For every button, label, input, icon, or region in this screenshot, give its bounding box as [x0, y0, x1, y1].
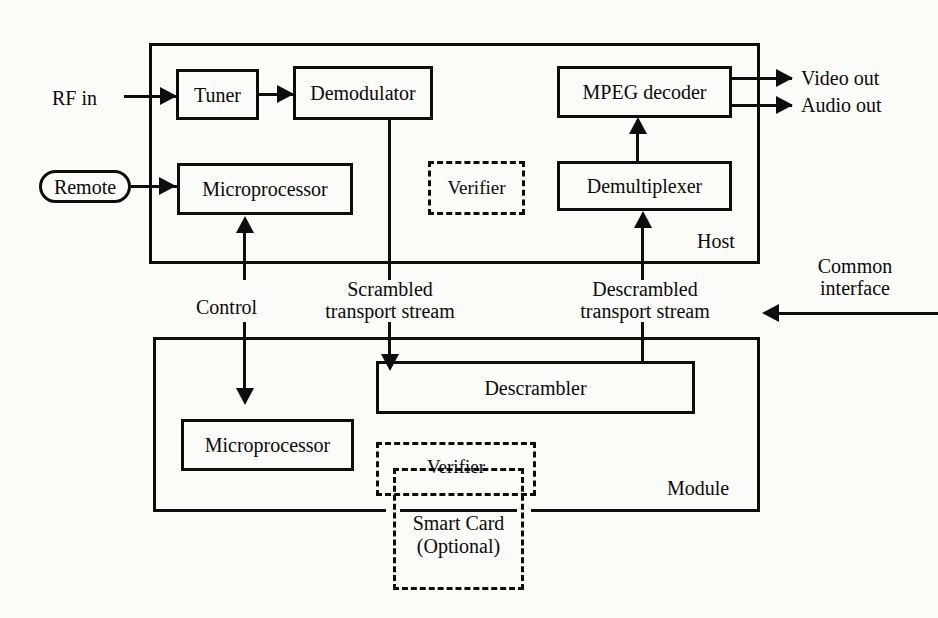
remote-label: Remote [42, 175, 128, 198]
scrambled-stream-label: Scrambled transport stream [325, 278, 454, 323]
descrambled-arrowhead [634, 211, 652, 228]
remote-arrowhead [159, 177, 176, 195]
control-wire-upper [243, 232, 246, 280]
scrambled-stream-line2: transport stream [325, 300, 454, 322]
block-smart-card-line2: (Optional) [417, 535, 500, 557]
block-smart-card-line1: Smart Card [413, 512, 505, 534]
scrambled-stream-line1: Scrambled [347, 278, 433, 300]
block-demultiplexer-label: Demultiplexer [560, 175, 729, 198]
block-host-microprocessor: Microprocessor [177, 163, 353, 215]
common-interface-arrowhead [762, 304, 779, 322]
descrambled-stream-line1: Descrambled [592, 278, 698, 300]
block-module-microprocessor-label: Microprocessor [184, 434, 351, 457]
block-host-microprocessor-label: Microprocessor [180, 178, 350, 201]
host-container-label: Host [697, 230, 735, 252]
control-arrowhead-up [236, 216, 254, 233]
block-demodulator-label: Demodulator [296, 82, 430, 105]
remote-oval: Remote [39, 170, 131, 203]
control-label: Control [196, 296, 257, 318]
video-out-arrowhead [776, 69, 793, 87]
block-host-verifier-label: Verifier [431, 177, 522, 199]
rf-in-arrowhead [160, 87, 177, 105]
block-demodulator: Demodulator [293, 66, 433, 120]
common-interface-label: Common interface [818, 255, 892, 300]
block-module-microprocessor: Microprocessor [181, 419, 354, 471]
common-interface-pointer-wire [779, 312, 938, 315]
block-host-verifier: Verifier [428, 161, 525, 215]
rf-in-label: RF in [52, 87, 97, 109]
block-descrambler-label: Descrambler [379, 376, 692, 399]
block-mpeg-decoder: MPEG decoder [557, 66, 732, 118]
scrambled-wire-upper [388, 120, 391, 280]
block-smart-card-label: Smart Card (Optional) [396, 512, 521, 558]
common-interface-line1: Common [818, 255, 892, 277]
module-container-label: Module [667, 477, 729, 499]
block-mpeg-decoder-label: MPEG decoder [560, 81, 729, 104]
audio-out-arrowhead [776, 96, 793, 114]
diagram-canvas: Host RF in Tuner Demodulator Remote Micr… [0, 0, 938, 618]
block-demultiplexer: Demultiplexer [557, 161, 732, 211]
block-tuner: Tuner [176, 69, 259, 120]
descrambled-stream-line2: transport stream [580, 300, 709, 322]
block-descrambler: Descrambler [376, 361, 695, 414]
block-smart-card: Smart Card (Optional) [393, 468, 524, 590]
descrambled-stream-label: Descrambled transport stream [580, 278, 709, 323]
demux-to-mpeg-arrowhead [629, 117, 647, 134]
common-interface-line2: interface [820, 277, 890, 299]
block-tuner-label: Tuner [179, 83, 256, 106]
descrambled-wire-upper [641, 228, 644, 280]
audio-out-label: Audio out [801, 94, 882, 116]
tuner-to-demodulator-arrowhead [277, 85, 294, 103]
video-out-label: Video out [801, 67, 879, 89]
